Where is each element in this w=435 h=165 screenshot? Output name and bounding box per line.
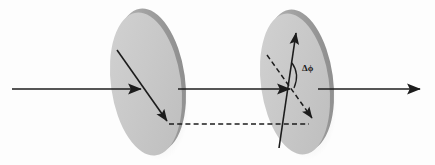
figure-canvas: Δϕ [0, 0, 435, 165]
phase-difference-label: Δϕ [302, 63, 314, 73]
polarization-diagram: Δϕ [0, 0, 435, 165]
